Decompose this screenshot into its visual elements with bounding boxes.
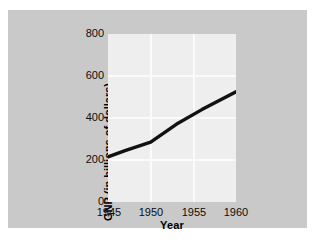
series-line-gnp xyxy=(108,34,236,202)
y-tick-label: 400 xyxy=(74,112,104,123)
x-tick-label: 1955 xyxy=(174,206,214,218)
y-tick-label: 600 xyxy=(74,70,104,81)
x-tick-label: 1960 xyxy=(216,206,256,218)
y-tick-label: 200 xyxy=(74,154,104,165)
y-axis-ticks: 800 600 400 200 0 xyxy=(72,34,104,202)
plot-inner xyxy=(108,34,236,202)
figure-background: GNP (in billions of dollars) 800 600 400… xyxy=(8,10,307,228)
plot-area xyxy=(108,34,236,202)
x-axis-ticks: 1945 1950 1955 1960 xyxy=(108,206,236,220)
y-tick-label: 800 xyxy=(74,28,104,39)
x-axis-title: Year xyxy=(108,219,236,231)
y-axis-title-holder: GNP (in billions of dollars) xyxy=(52,38,72,198)
x-tick-label: 1945 xyxy=(89,206,129,218)
chart-screenshot: GNP (in billions of dollars) 800 600 400… xyxy=(0,0,319,242)
x-tick-label: 1950 xyxy=(131,206,171,218)
